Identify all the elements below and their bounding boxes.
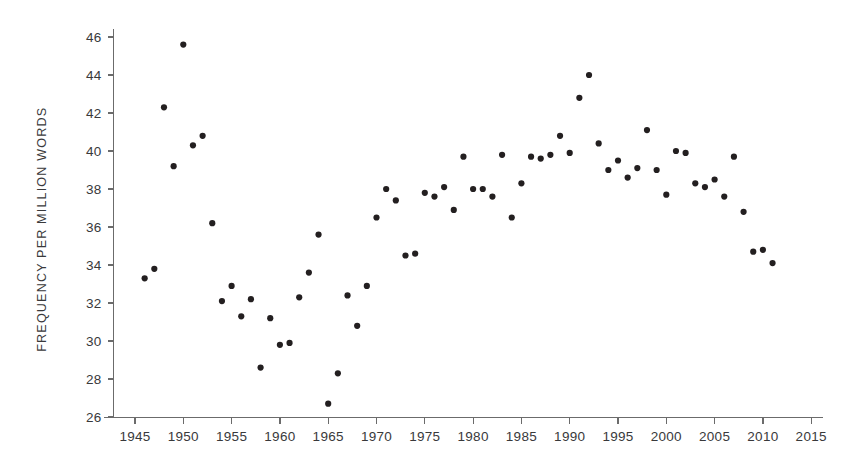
data-point xyxy=(576,95,582,101)
data-point xyxy=(248,296,254,302)
y-axis-tick-label: 34 xyxy=(86,258,102,273)
data-point xyxy=(373,214,379,220)
data-point xyxy=(740,209,746,215)
y-axis-title: FREQUENCY PER MILLION WORDS xyxy=(35,107,49,352)
data-point xyxy=(180,42,186,48)
x-axis-tick-label: 2010 xyxy=(747,429,778,444)
data-point xyxy=(663,192,669,198)
data-point xyxy=(267,315,273,321)
data-point xyxy=(499,152,505,158)
data-point xyxy=(489,194,495,200)
data-point xyxy=(200,133,206,139)
y-axis-tick-label: 44 xyxy=(86,68,102,83)
scatter-plot-figure: 2628303234363840424446194519501955196019… xyxy=(0,0,867,470)
data-point xyxy=(673,148,679,154)
data-point xyxy=(760,247,766,253)
data-point xyxy=(702,184,708,190)
data-point xyxy=(750,249,756,255)
data-point xyxy=(402,252,408,258)
data-point xyxy=(683,150,689,156)
data-point xyxy=(238,313,244,319)
data-point xyxy=(634,165,640,171)
x-axis-tick-label: 1980 xyxy=(457,429,488,444)
data-point xyxy=(654,167,660,173)
data-point xyxy=(383,186,389,192)
data-point xyxy=(151,266,157,272)
data-point xyxy=(190,142,196,148)
x-axis-tick-label: 2005 xyxy=(699,429,730,444)
y-axis-tick-label: 32 xyxy=(86,296,102,311)
x-axis-tick-label: 1985 xyxy=(506,429,537,444)
series-0-points xyxy=(142,42,776,407)
data-point xyxy=(286,340,292,346)
data-point xyxy=(721,194,727,200)
data-point xyxy=(277,342,283,348)
x-axis-tick-label: 1955 xyxy=(216,429,247,444)
x-axis-tick-label: 1965 xyxy=(313,429,344,444)
x-axis-tick-label: 1960 xyxy=(264,429,295,444)
data-point xyxy=(509,214,515,220)
data-point xyxy=(431,194,437,200)
x-axis-tick-label: 2015 xyxy=(796,429,827,444)
data-point xyxy=(209,220,215,226)
y-axis-tick-label: 38 xyxy=(86,182,102,197)
data-point xyxy=(712,176,718,182)
data-point xyxy=(557,133,563,139)
data-point xyxy=(161,104,167,110)
data-point xyxy=(171,163,177,169)
data-point xyxy=(605,167,611,173)
data-point xyxy=(325,401,331,407)
y-axis-tick-label: 46 xyxy=(86,30,102,45)
data-point xyxy=(441,184,447,190)
x-axis-tick-label: 1945 xyxy=(119,429,150,444)
data-point xyxy=(229,283,235,289)
data-point xyxy=(364,283,370,289)
data-point xyxy=(692,180,698,186)
data-point xyxy=(538,156,544,162)
plot-canvas: 2628303234363840424446194519501955196019… xyxy=(0,0,867,470)
data-point xyxy=(422,190,428,196)
data-point xyxy=(142,275,148,281)
y-axis-tick-label: 40 xyxy=(86,144,102,159)
data-point xyxy=(219,298,225,304)
x-axis-tick-label: 1995 xyxy=(602,429,633,444)
data-point xyxy=(296,294,302,300)
x-axis-tick-label: 1975 xyxy=(409,429,440,444)
data-point xyxy=(460,154,466,160)
data-point xyxy=(547,152,553,158)
x-axis-tick-label: 1990 xyxy=(554,429,585,444)
data-point xyxy=(769,260,775,266)
y-axis-tick-label: 26 xyxy=(86,410,102,425)
data-point xyxy=(480,186,486,192)
x-axis-tick-label: 1970 xyxy=(361,429,392,444)
data-point xyxy=(644,127,650,133)
y-axis-tick-label: 42 xyxy=(86,106,102,121)
data-point xyxy=(257,365,263,371)
y-axis-tick-label: 28 xyxy=(86,372,102,387)
data-point xyxy=(518,180,524,186)
x-axis-tick-label: 2000 xyxy=(651,429,682,444)
data-point xyxy=(451,207,457,213)
data-point xyxy=(344,292,350,298)
data-point xyxy=(596,140,602,146)
data-point xyxy=(731,154,737,160)
data-point xyxy=(470,186,476,192)
data-point xyxy=(393,197,399,203)
data-point xyxy=(335,370,341,376)
data-point xyxy=(306,270,312,276)
x-axis-tick-label: 1950 xyxy=(168,429,199,444)
data-point xyxy=(354,323,360,329)
data-point xyxy=(412,251,418,257)
data-point xyxy=(586,72,592,78)
y-axis-tick-label: 36 xyxy=(86,220,102,235)
data-point xyxy=(625,175,631,181)
data-point xyxy=(615,157,621,163)
data-point xyxy=(315,232,321,238)
y-axis-tick-label: 30 xyxy=(86,334,102,349)
data-point xyxy=(528,154,534,160)
data-point xyxy=(567,150,573,156)
